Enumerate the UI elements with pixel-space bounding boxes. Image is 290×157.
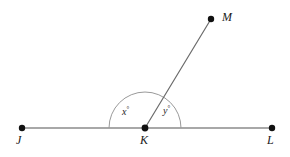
point-label-m: M xyxy=(222,11,232,23)
point-label-l: L xyxy=(267,134,274,146)
angle-label-y: y° xyxy=(163,105,170,116)
point-dot-m xyxy=(208,16,214,22)
geometry-figure: J K L M x° y° xyxy=(0,0,290,157)
point-label-k: K xyxy=(140,134,148,146)
point-dot-k xyxy=(142,125,149,132)
point-dot-j xyxy=(19,125,25,131)
degree-symbol-x: ° xyxy=(126,105,129,113)
degree-symbol-y: ° xyxy=(167,104,170,112)
point-dot-l xyxy=(269,125,275,131)
point-label-j: J xyxy=(16,134,21,146)
angle-label-x: x° xyxy=(122,106,129,117)
ray-segment-km xyxy=(145,19,211,128)
